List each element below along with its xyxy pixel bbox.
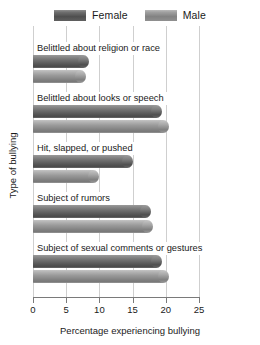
bar-body — [33, 155, 127, 168]
bar-body — [33, 220, 147, 233]
bar-female — [33, 105, 162, 118]
tick-15 — [133, 297, 134, 303]
bar-female — [33, 155, 133, 168]
bar-group: Subject of sexual comments or gestures — [33, 242, 240, 283]
category-label: Belittled about looks or speech — [35, 92, 167, 105]
tick-10 — [99, 297, 100, 303]
bar-female — [33, 205, 151, 218]
category-label: Subject of sexual comments or gestures — [35, 242, 205, 255]
bar-male — [33, 170, 99, 183]
category-label: Belittled about religion or race — [35, 42, 163, 55]
bar-body — [33, 270, 163, 283]
bar-end-cap — [158, 120, 169, 133]
tick-label-0: 0 — [21, 304, 45, 315]
bar-end-cap — [78, 55, 89, 68]
tick-0 — [33, 297, 34, 303]
plot-area: Belittled about religion or raceBelittle… — [33, 26, 240, 298]
tick-label-5: 5 — [54, 304, 78, 315]
bar-body — [33, 255, 156, 268]
bar-body — [33, 205, 145, 218]
bar-group: Belittled about looks or speech — [33, 92, 240, 133]
female-swatch-icon — [54, 10, 86, 21]
bar-end-cap — [122, 155, 133, 168]
bar-male — [33, 70, 86, 83]
bar-end-cap — [75, 70, 86, 83]
bar-body — [33, 70, 80, 83]
bar-male — [33, 270, 169, 283]
tick-label-20: 20 — [154, 304, 178, 315]
bar-end-cap — [151, 255, 162, 268]
bar-end-cap — [158, 270, 169, 283]
bar-male — [33, 120, 169, 133]
legend-entry-female: Female — [54, 9, 128, 21]
bar-body — [33, 55, 83, 68]
bar-end-cap — [88, 170, 99, 183]
x-axis-title: Percentage experiencing bullying — [0, 325, 260, 336]
legend-label-female: Female — [92, 9, 128, 21]
bar-body — [33, 120, 163, 133]
bar-male — [33, 220, 153, 233]
bar-end-cap — [151, 105, 162, 118]
bar-end-cap — [140, 205, 151, 218]
category-label: Subject of rumors — [35, 192, 113, 205]
tick-label-10: 10 — [87, 304, 111, 315]
category-label: Hit, slapped, or pushed — [35, 142, 136, 155]
bar-group: Subject of rumors — [33, 192, 240, 233]
bar-body — [33, 170, 93, 183]
tick-label-15: 15 — [121, 304, 145, 315]
tick-25 — [199, 297, 200, 303]
male-swatch-icon — [145, 10, 177, 21]
chart-legend: Female Male — [0, 7, 260, 23]
legend-label-male: Male — [183, 9, 206, 21]
tick-label-25: 25 — [187, 304, 211, 315]
y-axis-title: Type of bullying — [7, 96, 18, 236]
x-axis-line — [33, 297, 199, 298]
bar-female — [33, 55, 89, 68]
bar-body — [33, 105, 156, 118]
bar-group: Belittled about religion or race — [33, 42, 240, 83]
tick-20 — [166, 297, 167, 303]
bar-end-cap — [142, 220, 153, 233]
legend-entry-male: Male — [145, 9, 206, 21]
tick-5 — [66, 297, 67, 303]
bar-group: Hit, slapped, or pushed — [33, 142, 240, 183]
bar-female — [33, 255, 162, 268]
